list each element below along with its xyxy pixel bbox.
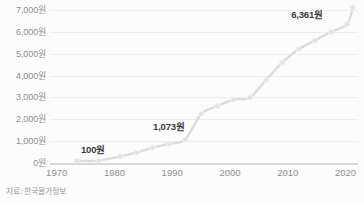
source-note: 자료: 한국물가정보 [6,188,66,196]
series-marker [312,38,317,43]
series-marker [264,77,269,82]
x-tick-label-1970: 1970 [46,168,67,178]
plot-area: 100원 1,073원 6,361원 [50,10,358,163]
gridline-baseline-0 [50,163,358,165]
series-marker [118,154,123,159]
x-tick-label-1980: 1980 [104,168,125,178]
series-marker [182,137,187,142]
series-marker [215,104,220,109]
series-markers [74,5,355,163]
series-marker [296,47,301,52]
x-tick-label-2010: 2010 [277,168,298,178]
series-marker [166,141,171,146]
annotation-6361won: 6,361원 [291,10,323,20]
y-tick-label-3000: 3,000원 [0,93,46,102]
y-tick-label-7000: 7,000원 [0,6,46,15]
series-line-chart [50,10,358,163]
y-axis-labels: 7,000원 6,000원 5,000원 4,000원 3,000원 2,000… [0,10,46,163]
series-marker [96,158,101,163]
series-marker [199,111,204,116]
x-axis-labels: 1970 1980 1990 2000 2010 2020 [50,168,358,182]
series-marker [74,158,79,163]
series-marker [134,150,139,155]
y-tick-label-1000: 1,000원 [0,137,46,146]
series-marker [345,21,350,26]
y-tick-label-2000: 2,000원 [0,115,46,124]
series-marker [350,5,355,10]
series-marker [247,95,252,100]
series-marker [231,97,236,102]
series-line-path [77,8,353,161]
x-tick-label-2000: 2000 [219,168,240,178]
x-tick-label-2020: 2020 [335,168,356,178]
y-tick-label-0: 0원 [0,159,46,168]
series-marker [280,60,285,65]
series-marker [328,29,333,34]
chart-figure: 7,000원 6,000원 5,000원 4,000원 3,000원 2,000… [0,0,364,205]
y-tick-label-4000: 4,000원 [0,71,46,80]
y-tick-label-5000: 5,000원 [0,49,46,58]
x-tick-label-1990: 1990 [162,168,183,178]
series-marker [150,145,155,150]
y-tick-label-6000: 6,000원 [0,27,46,36]
annotation-1073won: 1,073원 [153,122,185,132]
annotation-100won: 100원 [81,145,105,155]
